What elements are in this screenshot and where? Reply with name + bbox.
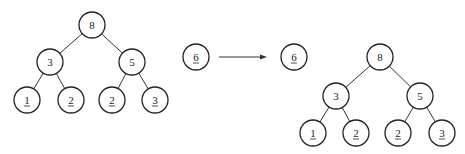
- node-label: 6: [193, 51, 199, 63]
- heap-node-1: 1: [300, 120, 326, 146]
- node-label: 2: [395, 127, 401, 139]
- tree-edge: [139, 73, 149, 89]
- right-heap-tree: 8351223: [300, 44, 455, 146]
- heap-node-2: 2: [99, 87, 125, 113]
- node-label: 8: [89, 19, 95, 31]
- tree-edge: [342, 107, 350, 121]
- node-label: 1: [24, 94, 30, 106]
- heap-diagram-canvas: 8351223 66 8351223: [0, 0, 465, 154]
- node-label: 8: [377, 51, 383, 63]
- heap-node-2: 2: [343, 120, 369, 146]
- heap-node-2: 2: [58, 87, 84, 113]
- heap-node-5: 5: [119, 49, 145, 75]
- tree-edge: [34, 73, 44, 89]
- heap-node-8: 8: [79, 12, 105, 38]
- tree-edge: [405, 107, 414, 122]
- node-label: 3: [47, 56, 53, 68]
- insertion-step: 66: [183, 44, 307, 70]
- tree-edge: [320, 107, 329, 122]
- left-heap-tree: 8351223: [14, 12, 168, 113]
- tree-edge: [427, 107, 436, 122]
- tree-edge: [389, 66, 410, 87]
- heap-node-5: 5: [407, 83, 433, 109]
- node-label: 1: [310, 127, 316, 139]
- node-label: 2: [68, 94, 74, 106]
- arrow-head-icon: [260, 55, 267, 60]
- heap-node-1: 1: [14, 87, 40, 113]
- node-label: 3: [333, 90, 339, 102]
- node-label: 3: [152, 94, 158, 106]
- node-label: 6: [291, 51, 297, 63]
- inserted-element-node: 6: [281, 44, 307, 70]
- heap-node-3: 3: [429, 120, 455, 146]
- heap-node-8: 8: [367, 44, 393, 70]
- tree-edge: [118, 74, 126, 89]
- tree-edge: [60, 34, 82, 54]
- heap-node-3: 3: [142, 87, 168, 113]
- tree-edge: [56, 73, 64, 88]
- node-label: 3: [439, 127, 445, 139]
- node-label: 5: [129, 56, 135, 68]
- tree-edge: [102, 34, 123, 53]
- node-label: 2: [109, 94, 115, 106]
- node-label: 2: [353, 127, 359, 139]
- tree-edge: [346, 66, 371, 88]
- heap-node-2: 2: [385, 120, 411, 146]
- heap-node-3: 3: [323, 83, 349, 109]
- heap-node-3: 3: [37, 49, 63, 75]
- new-element-node: 6: [183, 44, 209, 70]
- node-label: 5: [417, 90, 423, 102]
